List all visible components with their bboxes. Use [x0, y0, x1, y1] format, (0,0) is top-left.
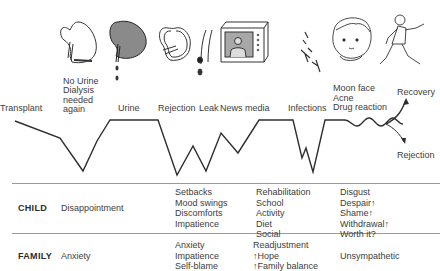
running-child-icon: [380, 15, 424, 64]
stage-label-drug-reaction: Moon face Acne Drug reaction: [333, 84, 387, 113]
row-heading-child: CHILD: [18, 203, 47, 213]
child-col-2: Setbacks Mood swings Discomforts Impatie…: [175, 187, 228, 229]
kidney-shrunken-icon: [160, 28, 191, 61]
family-col-1: Anxiety: [61, 251, 91, 262]
stage-label-urine: Urine: [118, 103, 140, 113]
television-icon: [221, 22, 268, 62]
family-col-2: Anxiety Impatience Self-blame: [175, 240, 219, 271]
family-col-4: Unsympathetic: [340, 251, 400, 262]
stage-label-infections: Infections: [288, 103, 327, 113]
child-col-1: Disappointment: [61, 203, 124, 214]
kidney-outline-icon: [61, 22, 97, 63]
stage-label-no-urine: No Urine Dialysis needed again: [63, 77, 99, 114]
kidney-filled-icon: [110, 21, 146, 80]
stage-label-rejection: Rejection: [158, 103, 196, 113]
child-col-4: Disgust Despair↑ Shame↑ Withdrawal↑ Wort…: [340, 187, 389, 240]
divider-top: [12, 183, 440, 184]
stage-label-transplant: Transplant: [0, 103, 42, 113]
stage-label-news-media: News media: [220, 103, 270, 113]
row-heading-family: FAMILY: [18, 251, 52, 261]
outcome-label-recovery: Recovery: [397, 87, 435, 97]
ureter-leak-icon: [198, 30, 213, 75]
family-col-3: Readjustment ↑Hope ↑Family balance: [253, 240, 318, 271]
stage-label-leak: Leak: [199, 103, 219, 113]
rejection-arrow: [386, 124, 404, 142]
bacteria-icon: [301, 32, 320, 72]
child-face-icon: [333, 18, 371, 61]
course-trajectory-line: [15, 118, 403, 175]
child-col-3: Rehabilitation School Activity Diet Soci…: [256, 187, 311, 240]
outcome-label-rejection: Rejection: [397, 150, 435, 160]
